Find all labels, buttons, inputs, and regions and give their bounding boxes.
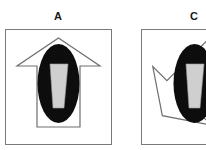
panel-label-a: A	[44, 10, 72, 22]
panel-a	[6, 30, 112, 145]
figure-canvas	[0, 0, 206, 150]
panel-c	[133, 23, 206, 145]
stimulus-figure: A C	[0, 0, 206, 150]
panel-label-c: C	[180, 10, 206, 22]
